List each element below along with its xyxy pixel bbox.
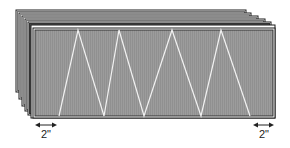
arrow-right-icon bbox=[269, 123, 274, 128]
arrow-left-icon bbox=[253, 123, 258, 128]
front-panel bbox=[33, 28, 275, 118]
panel-stack-diagram: 2" 2" bbox=[0, 0, 290, 148]
left-margin-label: 2" bbox=[41, 128, 51, 140]
right-margin-dimension: 2" bbox=[253, 123, 274, 141]
arrow-left-icon bbox=[35, 123, 40, 128]
right-margin-label: 2" bbox=[259, 128, 269, 140]
left-margin-dimension: 2" bbox=[35, 123, 57, 141]
arrow-right-icon bbox=[52, 123, 57, 128]
